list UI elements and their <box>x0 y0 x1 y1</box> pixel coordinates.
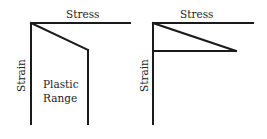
stress-strain-diagrams: Stress Strain Plastic Range Stress Strai… <box>0 0 267 139</box>
right-stress-label: Stress <box>180 8 213 20</box>
left-diagram: Stress Strain Plastic Range <box>15 8 130 124</box>
left-strain-label: Strain <box>15 59 27 92</box>
left-stress-label: Stress <box>66 8 99 20</box>
range-label: Range <box>43 92 77 104</box>
left-diagonal-line <box>31 23 88 50</box>
plastic-label: Plastic <box>43 78 79 90</box>
right-diagonal-line <box>153 23 236 51</box>
right-strain-label: Strain <box>138 59 150 92</box>
right-diagram: Stress Strain <box>138 8 253 124</box>
